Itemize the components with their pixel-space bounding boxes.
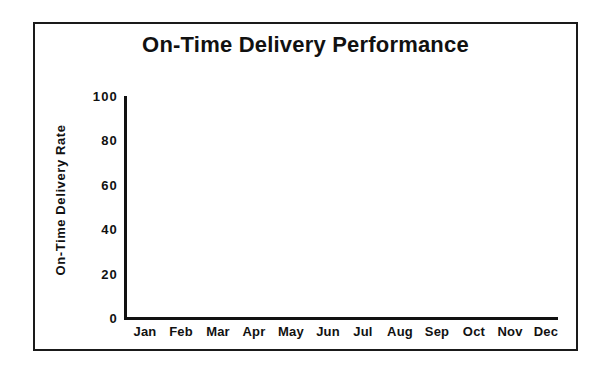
y-tick-label: 80 <box>78 134 118 147</box>
y-axis-tick-labels: 100 80 60 40 20 0 <box>78 0 118 371</box>
chart-figure: On-Time Delivery Performance On-Time Del… <box>0 0 607 371</box>
y-axis-title: On-Time Delivery Rate <box>52 100 70 300</box>
x-axis-line <box>124 317 558 320</box>
plot-area <box>127 96 558 317</box>
y-tick-label: 20 <box>78 268 118 281</box>
y-tick-label: 100 <box>78 90 118 103</box>
y-tick-label: 40 <box>78 223 118 236</box>
x-tick-label: Dec <box>524 325 568 339</box>
y-tick-label: 60 <box>78 179 118 192</box>
y-tick-label: 0 <box>78 312 118 325</box>
x-axis-tick-labels: Jan Feb Mar Apr May Jun Jul Aug Sep Oct … <box>124 325 558 343</box>
